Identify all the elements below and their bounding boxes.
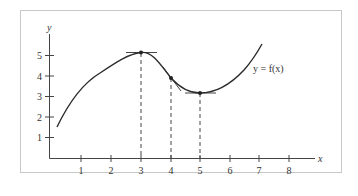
x-axis-label: x bbox=[317, 153, 323, 164]
y-tick-label: 2 bbox=[37, 112, 42, 123]
function-curve bbox=[57, 44, 262, 127]
curve-label: y = f(x) bbox=[253, 63, 284, 75]
x-tick-label: 7 bbox=[257, 165, 262, 176]
y-tick-label: 3 bbox=[37, 91, 42, 102]
x-tick-labels: 1 2 3 4 5 6 7 8 bbox=[79, 165, 292, 176]
y-tick-label: 4 bbox=[37, 71, 42, 82]
y-tick-label: 5 bbox=[37, 50, 42, 61]
point-inflection bbox=[169, 76, 173, 80]
x-tick-label: 3 bbox=[139, 165, 144, 176]
x-tick-label: 1 bbox=[79, 165, 84, 176]
x-tick-label: 5 bbox=[198, 165, 203, 176]
point-max bbox=[139, 51, 143, 55]
y-axis-label: y bbox=[46, 22, 52, 33]
x-tick-label: 6 bbox=[228, 165, 233, 176]
y-tick-label: 1 bbox=[37, 132, 42, 143]
x-tick-label: 8 bbox=[287, 165, 292, 176]
function-graph: 1 2 3 4 5 6 7 8 1 2 3 4 5 y x bbox=[0, 0, 358, 196]
dashed-guides bbox=[141, 53, 200, 158]
x-tick-label: 4 bbox=[169, 165, 174, 176]
axes bbox=[45, 34, 315, 162]
y-tick-labels: 1 2 3 4 5 bbox=[37, 50, 42, 143]
point-min bbox=[198, 91, 202, 95]
x-tick-label: 2 bbox=[109, 165, 114, 176]
figure-frame bbox=[21, 11, 342, 173]
